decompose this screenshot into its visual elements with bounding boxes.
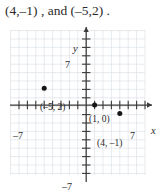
y-tick-label-neg7: –7 (62, 181, 72, 192)
point-label-neg5-2: (–5, 2) (40, 102, 65, 112)
point-label-1-0: (1, 0) (89, 114, 110, 124)
x-tick-label-7: 7 (130, 130, 135, 141)
y-tick-label-7: 7 (65, 59, 70, 70)
x-tick-label-neg7: –7 (13, 130, 23, 141)
data-point-neg5-2 (42, 86, 47, 91)
data-point-4-neg1 (117, 111, 122, 116)
coordinate-plane-figure: (–5, 2) (1, 0) (4, –1) y x 7 –7 7 –7 (0, 22, 167, 192)
data-point-1-0 (92, 103, 97, 108)
caption-text: (4,–1) , and (–5,2) . (5, 2, 165, 19)
coordinate-plane-svg (0, 22, 167, 192)
figure-page: (4,–1) , and (–5,2) . (0, 0, 167, 192)
y-axis-label: y (73, 43, 78, 54)
x-axis (10, 101, 152, 109)
x-axis-label: x (151, 125, 156, 136)
point-label-4-neg1: (4, –1) (97, 138, 122, 148)
